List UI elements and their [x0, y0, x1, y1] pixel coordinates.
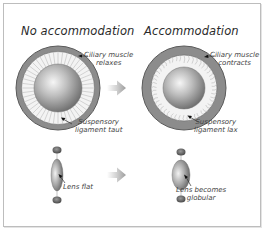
panel-title-accommodation: Accommodation	[144, 24, 239, 38]
label-line: Suspensory	[75, 118, 122, 126]
label-line: ligament lax	[194, 126, 238, 134]
label-line: globular	[176, 194, 226, 202]
label-suspensory-ligament-taut: Suspensory ligament taut	[75, 118, 122, 134]
label-line: Suspensory	[194, 118, 238, 126]
label-ciliary-muscle-relaxes: Ciliary muscle relaxes	[84, 51, 133, 67]
label-line: Ciliary muscle	[210, 51, 259, 59]
lens-flat-side-view	[51, 147, 65, 204]
transition-arrow-top	[107, 81, 126, 96]
label-line: Lens flat	[63, 183, 93, 191]
label-line: ligament taut	[75, 126, 122, 134]
panel-title-no-accommodation: No accommodation	[21, 24, 134, 38]
label-line: Ciliary muscle	[84, 51, 133, 59]
label-ciliary-muscle-contracts: Ciliary muscle contracts	[210, 51, 259, 67]
transition-arrow-bottom	[107, 168, 126, 183]
label-lens-becomes-globular: Lens becomes globular	[176, 186, 226, 202]
label-line: Lens becomes	[176, 186, 226, 194]
label-line: relaxes	[84, 59, 133, 67]
label-lens-flat: Lens flat	[63, 183, 93, 191]
label-line: contracts	[210, 59, 259, 67]
label-suspensory-ligament-lax: Suspensory ligament lax	[194, 118, 238, 134]
